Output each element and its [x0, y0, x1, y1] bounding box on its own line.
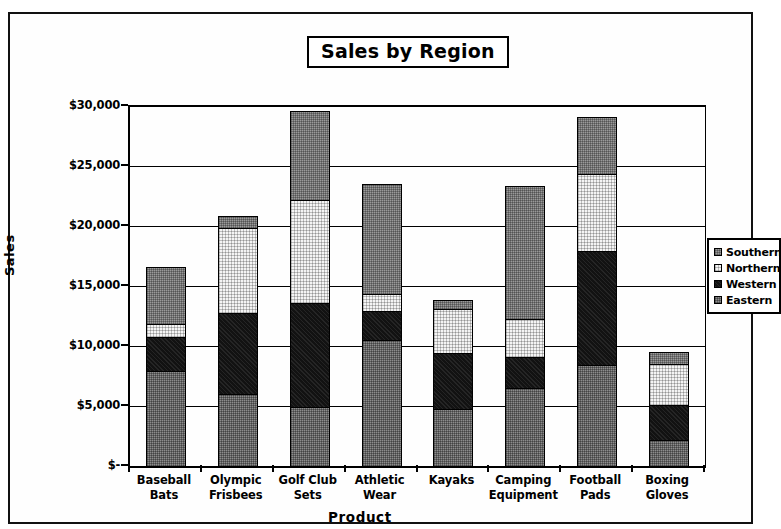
bar-segment-western[interactable]	[290, 303, 330, 409]
western-swatch	[714, 280, 722, 288]
bar-segment-southern[interactable]	[146, 267, 186, 325]
chart-title: Sales by Region	[307, 36, 509, 68]
y-axis-tick-label: $5,000	[30, 398, 120, 412]
bar-segment-eastern[interactable]	[505, 388, 545, 467]
bar-segment-southern[interactable]	[505, 186, 545, 320]
bar-segment-northern[interactable]	[218, 228, 258, 314]
bar-segment-southern[interactable]	[362, 184, 402, 294]
chart-legend: SouthernNorthernWesternEastern	[707, 238, 781, 314]
bar-segment-southern[interactable]	[577, 117, 617, 175]
y-axis-tick-label: $10,000	[30, 338, 120, 352]
legend-item-label: Eastern	[726, 294, 772, 307]
chart-frame: Sales by Region Sales Product SouthernNo…	[8, 12, 753, 524]
bar-segment-southern[interactable]	[290, 111, 330, 201]
bar-segment-northern[interactable]	[433, 309, 473, 355]
gridline	[130, 106, 705, 107]
y-axis-tick-mark	[121, 284, 128, 286]
y-axis-tick-mark	[121, 464, 128, 466]
x-axis-tick-mark	[559, 465, 561, 472]
x-axis-category-line: Boxing	[619, 473, 715, 488]
bar-segment-western[interactable]	[146, 337, 186, 373]
x-axis-category-line: Gloves	[619, 488, 715, 503]
bar-stack[interactable]	[649, 352, 689, 466]
bar-segment-northern[interactable]	[649, 364, 689, 406]
bar-stack[interactable]	[577, 117, 617, 466]
y-axis-tick-label: $15,000	[30, 278, 120, 292]
bar-stack[interactable]	[218, 216, 258, 466]
legend-item-southern[interactable]: Southern	[714, 244, 779, 260]
x-axis-tick-mark	[200, 465, 202, 472]
legend-item-label: Western	[726, 278, 776, 291]
gridline	[130, 286, 705, 287]
bar-stack[interactable]	[505, 186, 545, 466]
x-axis-category-line: Wear	[332, 488, 428, 503]
gridline	[130, 406, 705, 407]
bar-segment-eastern[interactable]	[146, 371, 186, 467]
bar-segment-western[interactable]	[577, 251, 617, 366]
bar-stack[interactable]	[146, 267, 186, 466]
y-axis-tick-label: $-	[30, 458, 120, 472]
plot-area	[128, 105, 706, 468]
x-axis-tick-mark	[703, 465, 705, 472]
bar-segment-eastern[interactable]	[362, 340, 402, 467]
bar-segment-western[interactable]	[218, 313, 258, 396]
bar-segment-eastern[interactable]	[290, 407, 330, 467]
y-axis-tick-mark	[121, 404, 128, 406]
bar-segment-eastern[interactable]	[433, 409, 473, 468]
eastern-swatch	[714, 296, 722, 304]
bar-segment-eastern[interactable]	[218, 394, 258, 467]
bar-segment-western[interactable]	[433, 353, 473, 409]
x-axis-tick-mark	[128, 465, 130, 472]
bar-stack[interactable]	[290, 111, 330, 466]
x-axis-tick-mark	[416, 465, 418, 472]
bar-segment-western[interactable]	[649, 405, 689, 441]
y-axis-tick-label: $25,000	[30, 158, 120, 172]
y-axis-tick-label: $20,000	[30, 218, 120, 232]
x-axis-category-label: BoxingGloves	[619, 473, 715, 503]
x-axis-tick-mark	[487, 465, 489, 472]
gridline	[130, 346, 705, 347]
legend-item-eastern[interactable]: Eastern	[714, 292, 779, 308]
legend-item-label: Northern	[726, 262, 780, 275]
bar-segment-western[interactable]	[505, 357, 545, 389]
legend-item-northern[interactable]: Northern	[714, 260, 779, 276]
bar-segment-northern[interactable]	[290, 200, 330, 304]
northern-swatch	[714, 264, 722, 272]
bar-segment-northern[interactable]	[505, 319, 545, 359]
y-axis-title: Sales	[2, 234, 17, 276]
bar-segment-eastern[interactable]	[649, 440, 689, 468]
y-axis-tick-mark	[121, 224, 128, 226]
southern-swatch	[714, 248, 722, 256]
y-axis-tick-mark	[121, 164, 128, 166]
y-axis-tick-mark	[121, 104, 128, 106]
x-axis-tick-mark	[344, 465, 346, 472]
x-axis-tick-mark	[631, 465, 633, 472]
x-axis-title: Product	[328, 509, 392, 525]
bar-segment-northern[interactable]	[362, 294, 402, 313]
bar-segment-northern[interactable]	[577, 174, 617, 253]
gridline	[130, 226, 705, 227]
bar-stack[interactable]	[362, 184, 402, 466]
bar-stack[interactable]	[433, 300, 473, 466]
gridline	[130, 166, 705, 167]
y-axis-tick-label: $30,000	[30, 98, 120, 112]
legend-item-western[interactable]: Western	[714, 276, 779, 292]
bar-segment-eastern[interactable]	[577, 365, 617, 467]
bar-segment-western[interactable]	[362, 311, 402, 341]
y-axis-tick-mark	[121, 344, 128, 346]
x-axis-tick-mark	[272, 465, 274, 472]
legend-item-label: Southern	[726, 246, 781, 259]
